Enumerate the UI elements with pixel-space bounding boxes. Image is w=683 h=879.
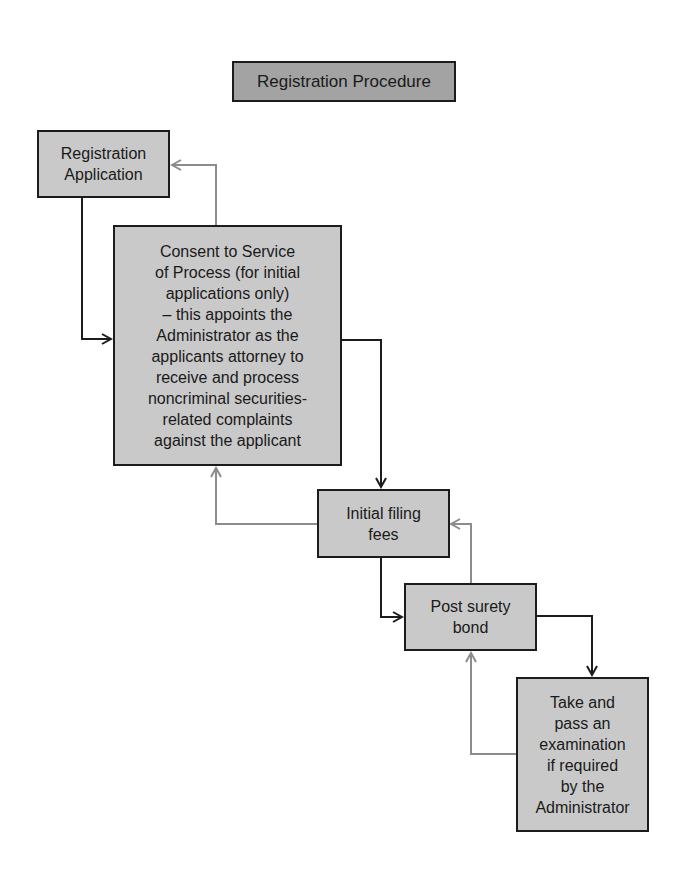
back-arrow-bond-to-fees xyxy=(451,524,471,583)
step-initial-filing-fees: Initial filing fees xyxy=(317,489,450,558)
step-label: Initial filing fees xyxy=(346,503,421,545)
back-arrow-consent-to-application xyxy=(172,165,216,225)
step-label: Post surety bond xyxy=(430,596,510,638)
arrow-application-to-consent xyxy=(82,198,111,339)
step-consent-to-service: Consent to Service of Process (for initi… xyxy=(113,225,342,466)
step-label: Consent to Service of Process (for initi… xyxy=(148,241,307,451)
step-post-surety-bond: Post surety bond xyxy=(404,583,537,651)
arrow-consent-to-fees xyxy=(342,340,381,487)
diagram-title: Registration Procedure xyxy=(232,61,456,102)
step-label: Registration Application xyxy=(61,143,146,185)
arrow-fees-to-bond xyxy=(381,558,402,617)
back-arrow-fees-to-consent xyxy=(216,468,317,524)
diagram-title-text: Registration Procedure xyxy=(257,71,431,92)
back-arrow-exam-to-bond xyxy=(471,653,516,754)
step-registration-application: Registration Application xyxy=(37,130,170,198)
step-label: Take and pass an examination if required… xyxy=(535,692,629,818)
step-take-examination: Take and pass an examination if required… xyxy=(516,677,649,832)
arrow-bond-to-exam xyxy=(537,616,592,675)
